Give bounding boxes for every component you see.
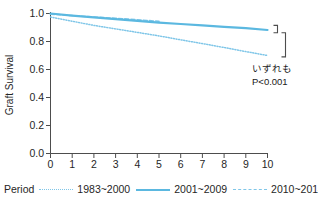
legend-item-2001-2009[interactable]: 2001~2009 — [136, 183, 227, 195]
y-tick-label: 0.6 — [29, 63, 44, 75]
y-tick-label: 0.2 — [29, 119, 44, 131]
y-tick-labels: 1.0 0.8 0.6 0.4 0.2 0.0 — [29, 7, 44, 159]
legend-label-2001-2009: 2001~2009 — [174, 183, 227, 195]
y-tick-label: 0.4 — [29, 91, 44, 103]
legend-swatch-dashed-icon — [233, 186, 267, 192]
data-series-group — [51, 14, 268, 56]
x-tick-label: 4 — [134, 158, 140, 168]
x-tick-labels: 0 1 2 3 4 5 6 7 8 9 10 — [48, 158, 274, 168]
x-tick-label: 6 — [178, 158, 184, 168]
legend-title: Period — [4, 183, 34, 195]
legend-label-2010-2014: 2010~2014 — [271, 183, 318, 195]
x-tick-label: 7 — [199, 158, 205, 168]
significance-note-line2: P<0.001 — [252, 76, 288, 87]
x-tick-label: 2 — [91, 158, 97, 168]
x-tick-label: 3 — [113, 158, 119, 168]
bracket-lower — [282, 33, 286, 57]
significance-note-line1: いずれも — [252, 63, 292, 74]
legend-item-2010-2014[interactable]: 2010~2014 — [233, 183, 318, 195]
survival-curve-svg: Graft Survival 1.0 0.8 0.6 0.4 0.2 0.0 — [0, 0, 318, 168]
x-tick-label: 5 — [156, 158, 162, 168]
x-tick-label: 0 — [48, 158, 54, 168]
series-line-2001-2009 — [51, 14, 268, 31]
y-axis-title: Graft Survival — [4, 55, 15, 116]
y-tick-label: 0.0 — [29, 147, 44, 159]
chart-legend: Period 1983~2000 2001~2009 2010~2014 — [0, 179, 318, 199]
legend-swatch-dotted-icon — [39, 186, 73, 192]
plot-area: Graft Survival 1.0 0.8 0.6 0.4 0.2 0.0 — [0, 0, 318, 168]
significance-brackets — [274, 25, 286, 57]
graft-survival-figure: Graft Survival 1.0 0.8 0.6 0.4 0.2 0.0 — [0, 0, 318, 199]
y-tick-label: 1.0 — [29, 7, 44, 19]
y-tick-label: 0.8 — [29, 35, 44, 47]
x-tick-label: 1 — [69, 158, 75, 168]
legend-item-1983-2000[interactable]: 1983~2000 — [39, 183, 130, 195]
legend-swatch-solid-icon — [136, 186, 170, 192]
legend-label-1983-2000: 1983~2000 — [77, 183, 130, 195]
x-tick-label: 10 — [262, 158, 274, 168]
x-tick-label: 9 — [243, 158, 249, 168]
x-tick-label: 8 — [221, 158, 227, 168]
bracket-upper — [274, 25, 278, 32]
axis-lines — [51, 12, 269, 154]
y-ticks — [46, 14, 51, 154]
